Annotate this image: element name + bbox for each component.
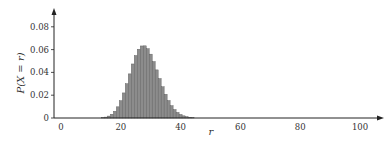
bar bbox=[125, 84, 128, 118]
bar bbox=[176, 112, 179, 118]
bar bbox=[158, 79, 161, 118]
y-axis-title: P(X = r) bbox=[15, 52, 26, 94]
binomial-bar-chart: 00.020.040.060.08 020406080100 P(X = r) … bbox=[0, 0, 391, 150]
bars-group bbox=[101, 46, 194, 118]
bar bbox=[134, 56, 137, 118]
bar bbox=[110, 114, 113, 118]
bar bbox=[161, 87, 164, 118]
bar bbox=[179, 114, 182, 118]
bar bbox=[152, 62, 155, 118]
x-tick-label: 80 bbox=[295, 122, 306, 132]
y-tick-label: 0.06 bbox=[30, 45, 49, 55]
bar bbox=[116, 107, 119, 118]
bar bbox=[155, 70, 158, 118]
y-axis-ticks: 00.020.040.060.08 bbox=[30, 22, 54, 123]
bar bbox=[164, 94, 167, 118]
bar bbox=[173, 110, 176, 118]
x-axis-title: r bbox=[209, 126, 215, 137]
bar bbox=[170, 106, 173, 118]
y-tick-label: 0.02 bbox=[30, 90, 49, 100]
bar bbox=[167, 101, 170, 118]
x-tick-label: 0 bbox=[58, 122, 63, 132]
x-tick-label: 40 bbox=[175, 122, 186, 132]
x-tick-label: 60 bbox=[235, 122, 246, 132]
bar bbox=[113, 111, 116, 118]
y-tick-label: 0.08 bbox=[30, 22, 49, 32]
bar bbox=[140, 46, 143, 118]
bar bbox=[149, 54, 152, 118]
bar bbox=[143, 46, 146, 118]
bar bbox=[122, 93, 125, 118]
bar bbox=[119, 101, 122, 118]
x-tick-label: 100 bbox=[352, 122, 368, 132]
x-axis-arrow-icon bbox=[377, 116, 384, 121]
bar bbox=[137, 49, 140, 118]
x-tick-label: 20 bbox=[115, 122, 126, 132]
y-axis-arrow-icon bbox=[52, 8, 57, 15]
bar bbox=[128, 74, 131, 118]
y-tick-label: 0.04 bbox=[30, 67, 49, 77]
bar bbox=[131, 64, 134, 118]
bar bbox=[146, 49, 149, 118]
y-tick-label: 0 bbox=[44, 113, 49, 123]
